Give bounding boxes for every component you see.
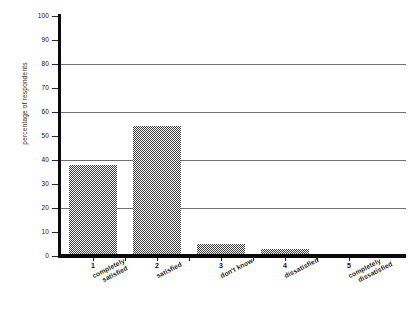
x-category-label-5: completely dissatisfied xyxy=(347,253,394,287)
x-category-number-5: 5 xyxy=(343,262,355,269)
x-category-number-1: 1 xyxy=(87,262,99,269)
y-tick-label-30: 30 xyxy=(21,180,49,187)
x-tick-mark xyxy=(285,257,286,261)
bar-1 xyxy=(69,165,117,256)
bar-chart: percentage of respondents 0 10 20 30 40 … xyxy=(0,0,415,312)
x-category-number-2: 2 xyxy=(151,262,163,269)
y-tick-label-80: 80 xyxy=(21,60,49,67)
x-tick-mark xyxy=(125,257,126,261)
x-tick-mark xyxy=(157,257,158,261)
x-axis-line xyxy=(58,254,406,258)
x-category-number-3: 3 xyxy=(215,262,227,269)
y-tick-label-60: 60 xyxy=(21,108,49,115)
x-tick-mark xyxy=(189,257,190,261)
x-tick-mark xyxy=(221,257,222,261)
y-tick-label-10: 10 xyxy=(21,228,49,235)
y-tick-label-20: 20 xyxy=(21,204,49,211)
y-axis-line xyxy=(58,14,61,258)
y-tick-label-90: 90 xyxy=(21,36,49,43)
y-tick-label-50: 50 xyxy=(21,132,49,139)
x-tick-mark xyxy=(349,257,350,261)
bar-2 xyxy=(133,126,181,256)
y-tick-label-70: 70 xyxy=(21,84,49,91)
y-tick-label-40: 40 xyxy=(21,156,49,163)
y-tick-label-0: 0 xyxy=(21,252,49,259)
y-tick-label-100: 100 xyxy=(21,12,49,19)
y-axis-title: percentage of respondents xyxy=(21,34,28,174)
x-tick-mark xyxy=(93,257,94,261)
plot-area xyxy=(61,16,406,256)
x-category-number-4: 4 xyxy=(279,262,291,269)
